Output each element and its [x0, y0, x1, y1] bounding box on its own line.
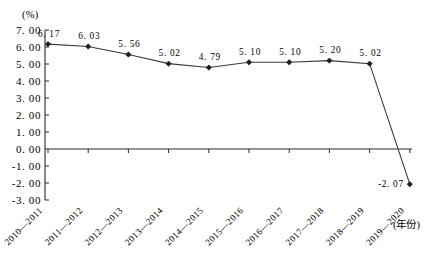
series-data-point	[86, 44, 91, 49]
data-point-label: 5. 10	[239, 47, 261, 57]
y-axis-tick-labels: 7. 006. 005. 004. 003. 002. 001. 000. 00…	[12, 24, 41, 206]
data-point-label: 5. 02	[360, 48, 382, 58]
series-data-point	[126, 52, 131, 57]
chart-canvas: 7. 006. 005. 004. 003. 002. 001. 000. 00…	[0, 0, 448, 263]
data-point-label: 6. 17	[38, 29, 60, 39]
series-data-point	[407, 181, 412, 186]
x-axis-tick-label: 2015—2016	[203, 205, 245, 247]
y-axis-tick-label: 3. 00	[16, 92, 41, 104]
y-axis-tick-label: -1. 00	[12, 160, 41, 172]
series-data-point	[246, 60, 251, 65]
x-axis-tick-label: 2014—2015	[163, 205, 205, 247]
series-data-point	[287, 60, 292, 65]
x-axis-tick-marks	[48, 149, 410, 153]
series-data-point	[327, 58, 332, 63]
axis-lines	[45, 30, 412, 200]
x-axis-tick-label: 2011—2012	[43, 205, 85, 247]
x-axis-tick-label: 2012—2013	[83, 205, 125, 247]
series-data-point	[45, 41, 50, 46]
y-axis-tick-label: -2. 00	[12, 177, 41, 189]
x-axis-tick-label: 2013—2014	[123, 205, 165, 247]
line-chart: 7. 006. 005. 004. 003. 002. 001. 000. 00…	[0, 0, 448, 263]
y-axis-tick-label: 4. 00	[16, 75, 41, 87]
y-axis-tick-label: 0. 00	[16, 143, 41, 155]
data-point-label: 5. 02	[159, 48, 181, 58]
y-axis-unit-label: (%)	[22, 9, 39, 21]
series-line-group	[48, 44, 410, 184]
x-axis-title: (年份)	[393, 218, 420, 231]
x-axis-tick-label: 2018—2019	[324, 205, 366, 247]
x-axis-tick-label: 2010—2011	[3, 205, 45, 247]
series-data-point	[367, 61, 372, 66]
data-point-label: 4. 79	[199, 52, 221, 62]
series-data-point	[206, 65, 211, 70]
series-line	[48, 44, 410, 184]
data-point-label: 5. 56	[118, 39, 140, 49]
x-axis-tick-label: 2016—2017	[244, 205, 286, 247]
x-axis-tick-label: 2017—2018	[284, 205, 326, 247]
data-point-label: 5. 20	[319, 45, 341, 55]
data-point-labels: 6. 176. 035. 565. 024. 795. 105. 105. 20…	[38, 29, 404, 190]
y-axis-tick-label: -3. 00	[12, 194, 41, 206]
y-axis-tick-label: 5. 00	[16, 58, 41, 70]
y-axis-tick-label: 1. 00	[16, 126, 41, 138]
data-point-label: -2. 07	[378, 179, 404, 189]
y-axis-tick-marks	[45, 30, 49, 200]
data-point-label: 6. 03	[78, 31, 100, 41]
series-data-point	[166, 61, 171, 66]
data-point-label: 5. 10	[279, 47, 301, 57]
y-axis-tick-label: 2. 00	[16, 109, 41, 121]
x-axis-tick-labels: 2010—20112011—20122012—20132013—20142014…	[3, 205, 407, 247]
y-axis-tick-label: 6. 00	[16, 41, 41, 53]
